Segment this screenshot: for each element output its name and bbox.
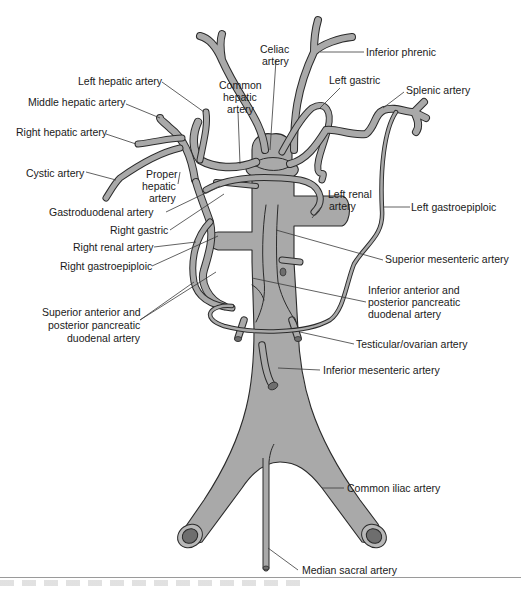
label-right-hepatic-artery: Right hepatic artery bbox=[16, 126, 108, 138]
label-testicular-ovarian-artery: Testicular/ovarian artery bbox=[356, 338, 468, 350]
label-middle-hepatic-artery: Middle hepatic artery bbox=[28, 96, 126, 108]
label-left-renal-artery: Left renalartery bbox=[328, 188, 372, 212]
label-inferior-phrenic: Inferior phrenic bbox=[366, 46, 436, 58]
label-right-renal-artery: Right renal artery bbox=[73, 241, 154, 253]
label-left-hepatic-artery: Left hepatic artery bbox=[78, 75, 163, 87]
label-gastroduodenal-artery: Gastroduodenal artery bbox=[49, 206, 154, 218]
label-common-iliac-artery: Common iliac artery bbox=[347, 482, 441, 494]
label-celiac-artery: Celiacartery bbox=[260, 43, 290, 67]
label-cystic-artery: Cystic artery bbox=[26, 167, 85, 179]
caption-divider bbox=[0, 577, 521, 578]
label-right-gastroepiploic: Right gastroepiploic bbox=[60, 260, 152, 272]
label-inferior-mesenteric-artery: Inferior mesenteric artery bbox=[323, 364, 440, 376]
label-inferior-pancreatic-duodenal: Inferior anterior andposterior pancreati… bbox=[368, 284, 460, 320]
label-superior-mesenteric-artery: Superior mesenteric artery bbox=[385, 253, 509, 265]
label-left-gastric: Left gastric bbox=[329, 74, 380, 86]
aorta-branches-diagram: Celiacartery Inferior phrenic Left hepat… bbox=[0, 0, 521, 589]
label-proper-hepatic-artery: Properhepaticartery bbox=[142, 168, 178, 204]
label-common-hepatic-artery: Commonhepaticartery bbox=[219, 79, 262, 115]
label-right-gastric: Right gastric bbox=[110, 224, 168, 236]
label-left-gastroepiploic: Left gastroepiploic bbox=[411, 201, 496, 213]
label-superior-pancreatic-duodenal: Superior anterior andposterior pancreati… bbox=[42, 306, 141, 344]
figure-caption-truncated bbox=[0, 580, 300, 586]
label-splenic-artery: Splenic artery bbox=[406, 84, 471, 96]
label-median-sacral-artery: Median sacral artery bbox=[302, 564, 398, 576]
